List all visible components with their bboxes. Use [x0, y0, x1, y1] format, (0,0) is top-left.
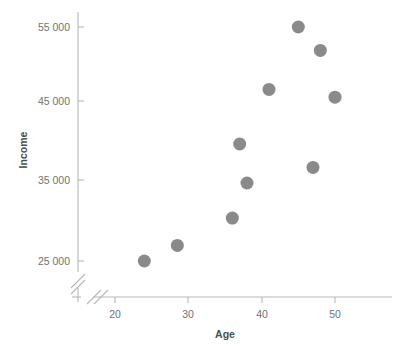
y-axis-ticks: 25 000 35 000 45 000 55 000 — [38, 21, 84, 267]
axis-lines — [72, 12, 392, 302]
scatter-chart: 25 000 35 000 45 000 55 000 20 30 40 50 … — [0, 0, 399, 345]
data-point — [329, 91, 342, 104]
data-points-layer — [138, 21, 342, 268]
x-tick-label-3: 50 — [329, 308, 341, 320]
x-tick-label-2: 40 — [256, 308, 268, 320]
data-point — [233, 138, 246, 151]
x-tick-label-0: 20 — [109, 308, 121, 320]
axis-break-marks — [71, 274, 108, 304]
y-tick-label-3: 55 000 — [38, 21, 70, 33]
y-tick-label-2: 45 000 — [38, 95, 70, 107]
x-tick-label-1: 30 — [182, 308, 194, 320]
y-tick-label-1: 35 000 — [38, 174, 70, 186]
data-point — [307, 161, 320, 174]
data-point — [263, 83, 276, 96]
data-point — [314, 44, 327, 57]
plot-area: 25 000 35 000 45 000 55 000 20 30 40 50 … — [0, 0, 399, 345]
data-point — [226, 212, 239, 225]
data-point — [241, 177, 254, 190]
y-axis-break-mark-1 — [71, 274, 85, 288]
data-point — [138, 255, 151, 268]
y-axis-title: Income — [17, 131, 29, 168]
data-point — [171, 239, 184, 252]
data-point — [292, 21, 305, 34]
y-tick-label-0: 25 000 — [38, 255, 70, 267]
x-axis-ticks: 20 30 40 50 — [109, 297, 341, 320]
x-axis-title: Age — [215, 328, 235, 340]
